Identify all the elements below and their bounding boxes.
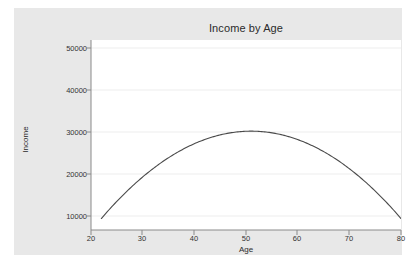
x-tick-label-80: 80 (397, 234, 405, 243)
x-tick-label-60: 60 (293, 234, 301, 243)
x-tick-label-30: 30 (138, 234, 146, 243)
x-tick-label-20: 20 (87, 234, 95, 243)
axis-decorations (14, 8, 402, 255)
x-tick-label-70: 70 (345, 234, 353, 243)
x-tick-label-40: 40 (190, 234, 198, 243)
chart-figure: Income by Age Income 50000 40000 30000 2… (0, 0, 416, 269)
x-axis-title: Age (91, 245, 401, 254)
x-tick-label-50: 50 (242, 234, 250, 243)
chart-canvas: Income by Age Income 50000 40000 30000 2… (14, 8, 402, 255)
